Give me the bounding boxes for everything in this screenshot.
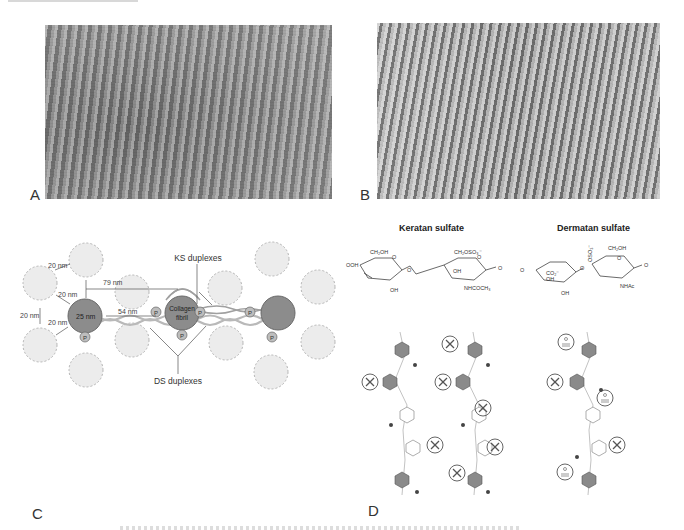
svg-text:O: O (580, 265, 585, 271)
micrograph-b (377, 23, 660, 199)
svg-text:79 nm: 79 nm (103, 279, 123, 286)
top-rule (8, 0, 138, 2)
svg-text:P: P (83, 335, 87, 341)
panel-label-d: D (368, 502, 379, 519)
svg-text:O: O (520, 267, 525, 273)
svg-text:OSO₃⁻: OSO₃⁻ (587, 245, 593, 262)
panel-label-c: C (32, 505, 43, 522)
svg-text:P: P (180, 333, 184, 339)
svg-text:Collagen: Collagen (169, 305, 195, 313)
svg-text:O: O (407, 267, 412, 273)
panel-label-b: B (360, 186, 370, 203)
svg-text:O: O (392, 254, 397, 260)
dermatan-sulfate-title: Dermatan sulfate (557, 223, 630, 233)
micrograph-a (45, 25, 332, 199)
svg-text:O: O (477, 254, 482, 260)
disaccharide-structures: OOH CH₂OH O O OH CH₂OSO₃⁻ O OH NHCOCH₃ O… (340, 240, 684, 320)
svg-text:NHCOCH₃: NHCOCH₃ (464, 285, 490, 291)
svg-text:OH: OH (546, 276, 554, 282)
svg-text:KS duplexes: KS duplexes (174, 253, 222, 263)
svg-text:P: P (198, 310, 202, 316)
svg-text:O: O (498, 265, 503, 271)
svg-text:25 nm: 25 nm (76, 313, 96, 320)
svg-text:OOH: OOH (346, 262, 359, 268)
svg-text:20 nm: 20 nm (58, 291, 78, 298)
svg-text:P: P (248, 310, 252, 316)
chain-1 (362, 332, 443, 495)
svg-text:CH₂OH: CH₂OH (370, 249, 388, 255)
svg-text:20 nm: 20 nm (48, 262, 68, 269)
svg-text:O: O (617, 255, 622, 261)
gag-chain-models (355, 320, 675, 505)
svg-text:OH: OH (453, 268, 461, 274)
svg-text:20 nm: 20 nm (48, 319, 68, 326)
svg-text:NHAc: NHAc (620, 283, 635, 289)
svg-text:P: P (270, 335, 274, 341)
chain-3 (547, 332, 625, 495)
fibril-spacing-diagram: P P P P P P 79 nm 54 nm 25 nm 20 nm 20 n… (0, 200, 345, 400)
svg-text:fibril: fibril (176, 314, 188, 321)
chain-2 (435, 332, 503, 495)
svg-text:20 nm: 20 nm (20, 312, 40, 319)
svg-text:OH: OH (561, 290, 569, 296)
svg-text:DS duplexes: DS duplexes (154, 376, 202, 386)
svg-text:54 nm: 54 nm (118, 308, 138, 315)
keratan-sulfate-title: Keratan sulfate (399, 223, 464, 233)
svg-text:OH: OH (390, 287, 398, 293)
figure-caption-truncated (120, 526, 520, 530)
svg-text:CH₂OH: CH₂OH (608, 245, 626, 251)
svg-text:O: O (644, 262, 649, 268)
svg-text:P: P (154, 310, 158, 316)
